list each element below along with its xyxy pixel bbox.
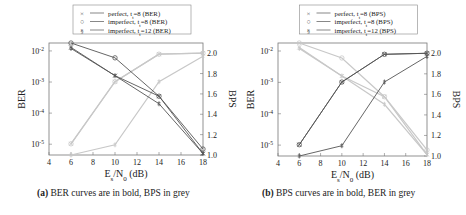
caption-b-label: (b)	[262, 188, 274, 198]
x-tick-label: 16	[402, 159, 410, 168]
y-right-tick-label: 1.0	[431, 152, 441, 161]
y-left-axis-label: BER	[16, 89, 27, 109]
series-perfect-t-t-8-bps-	[69, 51, 205, 146]
y-right-axis: 1.01.21.41.61.82.0BPS	[424, 49, 462, 161]
x-tick-label: 10	[111, 158, 119, 167]
series-line	[71, 47, 203, 153]
x-tick-label: 6	[297, 159, 301, 168]
chart-panel-a: 4681012141618Es/N0 (dB)10-210-310-410-5B…	[0, 0, 240, 185]
y-left-tick-label: 10-2	[31, 46, 44, 56]
series-perfect-t-t-8-ber-	[297, 45, 429, 156]
x-tick-label: 10	[338, 159, 346, 168]
y-left-tick-label: 10-3	[260, 77, 273, 87]
legend: ×perfect, tt=8 (BER)○imperfect, tt=8 (BE…	[73, 5, 191, 36]
y-right-tick-label: 1.8	[207, 70, 217, 79]
series-line	[71, 43, 203, 149]
caption-b-text: BPS curves are in bold, BER in grey	[276, 188, 415, 198]
legend-marker-icon: §	[80, 27, 84, 35]
caption-b: (b) BPS curves are in bold, BER in grey	[262, 188, 415, 198]
series-line	[299, 43, 427, 150]
series-perfect-t-t-8-bps-	[297, 51, 429, 146]
series-imperfect-t-t-12-bps-	[298, 54, 429, 159]
series-imperfect-t-t-8-ber-	[297, 41, 429, 152]
series-imperfect-t-t-8-ber-	[69, 41, 205, 151]
x-tick-label: 12	[359, 159, 367, 168]
y-right-tick-label: 2.0	[207, 49, 217, 58]
legend: ×perfect, tt=8 (BPS)○imperfect, tt=8 (BP…	[300, 5, 418, 36]
legend-marker-icon: ○	[306, 18, 310, 26]
caption-a-text: BER curves are in bold, BPS in grey	[50, 188, 189, 198]
y-right-tick-label: 1.4	[207, 110, 217, 119]
y-right-axis-label: BPS	[451, 91, 462, 109]
caption-a-label: (a)	[37, 188, 48, 198]
chart-panel-b: 4681012141618Es/N0 (dB)10-210-310-410-5B…	[232, 0, 466, 185]
y-right-tick-label: 1.6	[207, 90, 217, 99]
y-right-tick-label: 1.4	[431, 111, 441, 120]
y-left-axis: 10-210-310-410-5BER	[16, 46, 52, 149]
series-imperfect-t-t-12-ber-	[70, 46, 205, 156]
y-left-tick-label: 10-2	[260, 46, 273, 56]
legend-marker-icon: ×	[80, 10, 84, 18]
legend-marker-icon: ×	[307, 10, 311, 18]
x-tick-label: 8	[319, 159, 323, 168]
series-line	[71, 53, 203, 144]
series-line	[299, 56, 427, 156]
series-line	[71, 53, 203, 144]
y-left-tick-label: 10-4	[260, 109, 273, 119]
x-tick-label: 4	[47, 158, 51, 167]
legend-marker-icon: ○	[80, 18, 84, 26]
caption-a: (a) BER curves are in bold, BPS in grey	[37, 188, 190, 198]
series-imperfect-t-t-12-bps-	[70, 54, 205, 158]
plot-frame	[278, 43, 427, 156]
series-imperfect-t-t-12-ber-	[298, 46, 429, 157]
series-perfect-t-t-8-ber-	[69, 45, 205, 155]
x-tick-label: 8	[91, 158, 95, 167]
series-imperfect-t-t-8-bps-	[297, 51, 429, 147]
y-left-tick-label: 10-5	[260, 140, 273, 150]
legend-label: imperfect, tt=12 (BPS)	[335, 27, 397, 37]
series-imperfect-t-t-8-bps-	[69, 51, 205, 146]
plot-frame	[49, 43, 203, 155]
x-tick-label: 18	[423, 159, 431, 168]
y-right-tick-label: 1.2	[207, 131, 217, 140]
x-tick-label: 14	[380, 159, 388, 168]
series-line	[71, 48, 203, 153]
x-tick-label: 4	[276, 159, 280, 168]
y-left-tick-label: 10-3	[31, 77, 44, 87]
y-right-tick-label: 1.0	[207, 151, 217, 160]
y-left-axis-label: BER	[245, 89, 256, 109]
y-right-tick-label: 2.0	[431, 49, 441, 58]
x-tick-label: 16	[177, 158, 185, 167]
x-tick-label: 12	[133, 158, 141, 167]
chart-a-canvas: 4681012141618Es/N0 (dB)10-210-310-410-5B…	[0, 0, 240, 185]
x-tick-label: 18	[199, 158, 207, 167]
series-line	[299, 53, 427, 144]
y-left-tick-label: 10-4	[31, 108, 44, 118]
series-line	[299, 49, 427, 155]
y-left-tick-label: 10-5	[31, 139, 44, 149]
y-right-tick-label: 1.2	[431, 131, 441, 140]
chart-b-canvas: 4681012141618Es/N0 (dB)10-210-310-410-5B…	[232, 0, 466, 185]
y-right-tick-label: 1.8	[431, 70, 441, 79]
legend-marker-icon: §	[307, 27, 311, 35]
x-tick-label: 14	[155, 158, 163, 167]
x-tick-label: 6	[69, 158, 73, 167]
y-right-tick-label: 1.6	[431, 90, 441, 99]
x-axis-label: Es/N0 (dB)	[331, 169, 374, 184]
series-line	[71, 56, 203, 155]
y-left-axis: 10-210-310-410-5BER	[245, 46, 281, 150]
x-axis-label: Es/N0 (dB)	[104, 168, 147, 183]
series-line	[299, 53, 427, 144]
series-line	[299, 47, 427, 154]
